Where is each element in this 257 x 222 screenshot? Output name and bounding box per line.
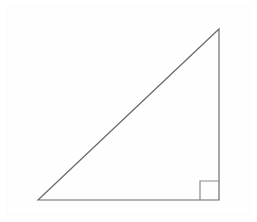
geometry-diagram-canvas [0, 0, 257, 222]
figure-root [0, 0, 257, 222]
right-angle-marker [200, 181, 219, 200]
right-triangle-shape [38, 29, 219, 200]
